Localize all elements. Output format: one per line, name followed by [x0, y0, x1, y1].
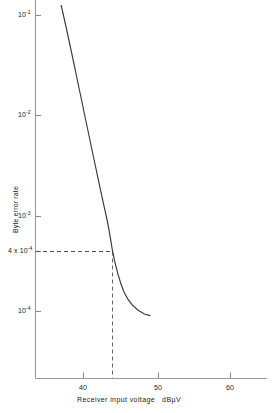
- y-tick-exp-3: -3: [26, 210, 31, 216]
- plot-canvas: [0, 0, 275, 413]
- x-tick-label-40: 40: [73, 384, 93, 391]
- byte-error-rate-chart: 10-1 10-2 10-3 4 x 10-4 10-4 40 50 60 By…: [0, 0, 275, 413]
- y-tick-label-1e-1: 10-1: [18, 11, 31, 18]
- byte-error-rate-curve: [61, 6, 150, 316]
- y-tick-label-4e-4: 4 x 10-4: [8, 247, 32, 254]
- x-tick-marks: [84, 373, 231, 379]
- x-tick-label-50: 50: [148, 384, 168, 391]
- x-axis-title: Receiver input voltage dBµV: [77, 396, 181, 403]
- y-tick-label-1e-4: 10-4: [18, 307, 31, 314]
- y-tick-exp-2: -2: [26, 109, 31, 115]
- x-tick-label-60: 60: [220, 384, 240, 391]
- y-tick-marks: [36, 16, 42, 312]
- y-tick-exp-4: -4: [28, 245, 33, 251]
- y-tick-exp-1: -1: [26, 9, 31, 15]
- y-tick-exp-5: -4: [26, 305, 31, 311]
- y-tick-label-1e-2: 10-2: [18, 111, 31, 118]
- y-axis-title: Byte error rate: [12, 186, 19, 233]
- y-tick-label-1e-3: 10-3: [18, 212, 31, 219]
